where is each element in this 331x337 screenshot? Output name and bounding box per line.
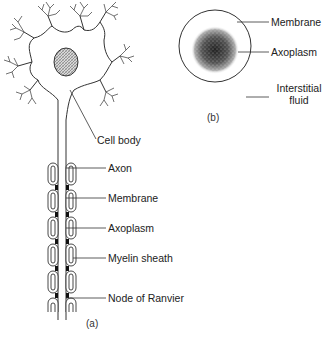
label-axoplasm-b: Axoplasm bbox=[271, 46, 317, 58]
cross-section bbox=[179, 10, 251, 82]
nucleus bbox=[54, 48, 78, 76]
label-cell-body: Cell body bbox=[97, 134, 141, 146]
caption-a: (a) bbox=[86, 318, 98, 329]
label-node-of-ranvier: Node of Ranvier bbox=[108, 292, 184, 304]
caption-b: (b) bbox=[207, 112, 219, 123]
label-interstitial-line1: Interstitial bbox=[268, 82, 330, 94]
label-axoplasm-a: Axoplasm bbox=[108, 222, 154, 234]
axon bbox=[58, 158, 66, 320]
myelin-sheath bbox=[48, 163, 76, 312]
label-membrane-a: Membrane bbox=[108, 192, 158, 204]
label-membrane-b: Membrane bbox=[271, 16, 321, 28]
label-interstitial-line2: fluid bbox=[268, 94, 330, 106]
label-interstitial-fluid: Interstitial fluid bbox=[268, 82, 330, 106]
label-axon: Axon bbox=[108, 162, 132, 174]
label-myelin-sheath: Myelin sheath bbox=[108, 252, 173, 264]
